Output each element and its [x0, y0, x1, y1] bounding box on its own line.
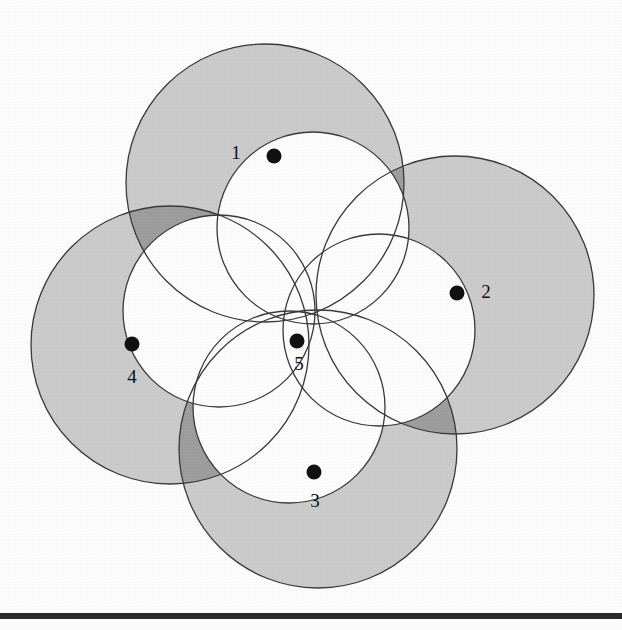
point-marker-5	[290, 334, 305, 349]
point-marker-1	[267, 149, 282, 164]
four-circle-overlap-diagram: 1 2 3 4 5	[0, 0, 622, 630]
point-label-2: 2	[481, 281, 491, 302]
point-label-1: 1	[231, 142, 241, 163]
point-label-5: 5	[294, 353, 304, 374]
figure-root: 1 2 3 4 5	[0, 0, 622, 630]
point-marker-2	[450, 286, 465, 301]
point-label-3: 3	[310, 490, 320, 511]
bottom-horizontal-rule	[0, 613, 622, 619]
point-marker-3	[307, 465, 322, 480]
point-label-4: 4	[127, 366, 137, 387]
point-marker-4	[125, 337, 140, 352]
